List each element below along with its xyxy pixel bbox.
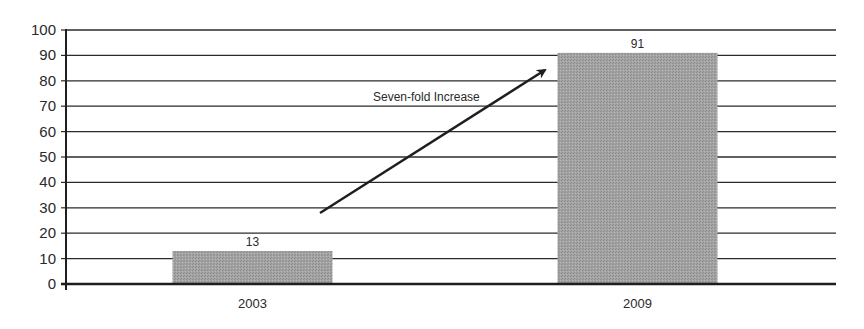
bar-chart	[0, 0, 864, 329]
y-tick-label: 40	[4, 174, 56, 190]
bar-2003	[173, 251, 333, 284]
axes	[61, 29, 836, 290]
y-tick-label: 0	[4, 276, 56, 292]
y-tick-label: 50	[4, 149, 56, 165]
x-tick-label: 2003	[193, 296, 313, 311]
x-tick-label: 2009	[578, 296, 698, 311]
bar-value-label: 13	[213, 235, 293, 249]
bar-value-label: 91	[598, 37, 678, 51]
gridlines	[66, 30, 836, 259]
y-tick-label: 80	[4, 73, 56, 89]
y-tick-label: 30	[4, 200, 56, 216]
annotation-label: Seven-fold Increase	[373, 90, 480, 104]
y-tick-label: 100	[4, 22, 56, 38]
bars	[173, 53, 718, 284]
y-tick-label: 60	[4, 124, 56, 140]
y-tick-label: 20	[4, 225, 56, 241]
y-tick-label: 90	[4, 47, 56, 63]
bar-2009	[558, 53, 718, 284]
y-tick-label: 70	[4, 98, 56, 114]
y-tick-label: 10	[4, 251, 56, 267]
